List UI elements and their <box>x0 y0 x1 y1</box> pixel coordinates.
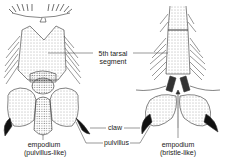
left-leg-drawing <box>4 4 90 136</box>
label-pulvillus: pulvillus <box>103 139 130 147</box>
pretarsus-diagram: 5th tarsal segment claw pulvillus empodi… <box>0 0 227 161</box>
right-leg-drawing <box>136 6 220 134</box>
caption-line: empodium <box>24 141 64 149</box>
label-claw: claw <box>106 124 124 132</box>
caption-left: empodium (pulvillus-like) <box>24 141 64 157</box>
diagram-drawing <box>0 0 227 161</box>
caption-line: (bristle-like) <box>158 149 198 157</box>
caption-line: (pulvillus-like) <box>24 149 64 157</box>
caption-right: empodium (bristle-like) <box>158 141 198 157</box>
label-5th-tarsal-segment: 5th tarsal segment <box>93 50 133 66</box>
label-line: 5th tarsal <box>93 50 133 58</box>
label-line: segment <box>93 58 133 66</box>
caption-line: empodium <box>158 141 198 149</box>
